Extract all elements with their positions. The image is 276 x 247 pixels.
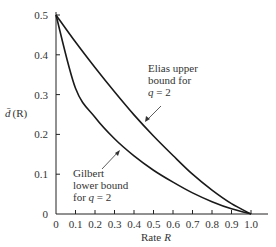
x-tick-label: 0.6 bbox=[166, 218, 180, 230]
x-tick-label: 0.7 bbox=[186, 218, 200, 230]
x-tick-label: 0.4 bbox=[127, 218, 141, 230]
x-ticks: 00.10.20.30.40.50.60.70.80.91.0 bbox=[53, 210, 258, 230]
svg-text:q = 2: q = 2 bbox=[148, 86, 171, 98]
svg-text:Gilbert: Gilbert bbox=[73, 167, 104, 179]
x-tick-label: 0.8 bbox=[205, 218, 219, 230]
svg-text:bound for: bound for bbox=[148, 74, 191, 86]
y-tick-label: 0 bbox=[43, 208, 49, 220]
gilbert-annotation: Gilbert lower bound for q = 2 bbox=[73, 150, 129, 203]
x-tick-label: 0.9 bbox=[225, 218, 239, 230]
x-tick-label: 1.0 bbox=[244, 218, 258, 230]
x-tick-label: 0.3 bbox=[108, 218, 122, 230]
svg-text:for q = 2: for q = 2 bbox=[73, 191, 111, 203]
x-axis-label: RateR bbox=[141, 231, 171, 243]
x-tick-label: 0.5 bbox=[147, 218, 161, 230]
svg-text:lower bound: lower bound bbox=[73, 179, 129, 191]
y-tick-label: 0.3 bbox=[34, 89, 48, 101]
y-tick-label: 0.4 bbox=[34, 49, 48, 61]
y-tick-label: 0.1 bbox=[34, 168, 48, 180]
svg-text:Elias upper: Elias upper bbox=[148, 62, 198, 74]
y-axis-label: d̄(R) bbox=[5, 107, 28, 120]
chart: 00.10.20.30.40.5 00.10.20.30.40.50.60.70… bbox=[0, 0, 276, 247]
x-tick-label: 0.2 bbox=[88, 218, 102, 230]
x-tick-label: 0 bbox=[53, 218, 59, 230]
gilbert-arrowhead bbox=[115, 150, 120, 156]
y-tick-label: 0.5 bbox=[34, 9, 48, 21]
x-tick-label: 0.1 bbox=[69, 218, 83, 230]
elias-arrowhead bbox=[145, 116, 150, 122]
y-tick-label: 0.2 bbox=[34, 128, 48, 140]
elias-annotation: Elias upper bound for q = 2 bbox=[145, 62, 198, 122]
